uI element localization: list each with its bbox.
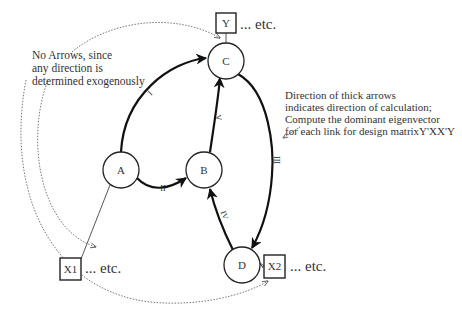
right-note-line-1: Direction of thick arrows xyxy=(285,89,455,101)
path-diagram: I II III IV V A B C D Y X1 X2 xyxy=(0,0,462,317)
node-b-label: B xyxy=(200,164,207,176)
node-c-label: C xyxy=(222,55,229,67)
edge-label-i: I xyxy=(146,89,154,97)
box-y: Y xyxy=(216,13,236,33)
box-x1: X1 xyxy=(60,258,81,280)
node-c: C xyxy=(208,43,244,79)
left-note-line-2: any direction is xyxy=(32,62,145,75)
left-note-line-1: No Arrows, since xyxy=(32,49,145,62)
connector-x1-a xyxy=(81,185,110,259)
right-note-line-3: Compute the dominant eigenvector xyxy=(285,113,455,125)
box-x2-label: X2 xyxy=(268,260,281,272)
left-note-line-3: determined exogenously xyxy=(32,75,145,88)
left-note: No Arrows, since any direction is determ… xyxy=(32,49,145,88)
box-y-label: Y xyxy=(222,17,230,29)
edge-iii-c-to-d xyxy=(238,74,272,248)
edge-label-v: V xyxy=(214,114,224,121)
box-x2: X2 xyxy=(264,255,285,278)
y-etc-text: ... etc. xyxy=(240,16,276,33)
x1-etc-text: ... etc. xyxy=(85,260,121,277)
edge-label-iii: III xyxy=(272,156,281,164)
node-d: D xyxy=(224,247,260,283)
node-a-label: A xyxy=(117,164,125,176)
pointer-curve-to-x1 xyxy=(38,80,96,247)
node-a: A xyxy=(103,152,139,188)
edge-label-ii: II xyxy=(160,184,166,193)
right-note-line-2: indicates direction of calculation; xyxy=(285,101,455,113)
node-d-label: D xyxy=(238,259,246,271)
node-b: B xyxy=(186,152,222,188)
x2-etc-text: ... etc. xyxy=(290,258,326,275)
right-note-line-4: for each link for design matrixY'XX'Y xyxy=(285,125,455,137)
pointer-curve-to-y xyxy=(72,22,220,52)
box-x1-label: X1 xyxy=(64,263,77,275)
right-note: Direction of thick arrows indicates dire… xyxy=(285,89,455,137)
